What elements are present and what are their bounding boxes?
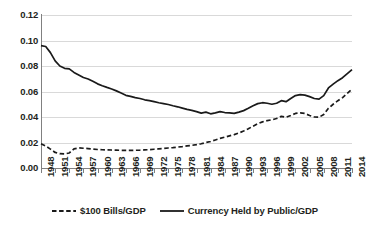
x-tick	[352, 169, 353, 173]
chart-legend: $100 Bills/GDPCurrency Held by Public/GD…	[0, 205, 370, 216]
y-tick-label: 0.02	[2, 137, 38, 148]
x-tick	[253, 169, 254, 173]
x-tick-label: 1975	[172, 157, 183, 177]
x-tick-label: 1987	[229, 157, 240, 177]
x-tick-label: 1969	[144, 157, 155, 177]
x-tick	[281, 169, 282, 173]
y-tick-label: 0.00	[2, 162, 38, 173]
chart-container: 0.120.100.080.060.040.020.00 19481951195…	[0, 0, 370, 233]
x-tick	[41, 169, 42, 173]
x-tick	[154, 169, 155, 173]
y-tick-label: 0.06	[2, 86, 38, 97]
x-tick-label: 1948	[45, 157, 56, 177]
x-tick-label: 1954	[73, 157, 84, 177]
x-tick-label: 1966	[130, 157, 141, 177]
plot-area	[41, 15, 352, 168]
y-tick-label: 0.04	[2, 111, 38, 122]
x-tick	[197, 169, 198, 173]
legend-label: Currency Held by Public/GDP	[188, 205, 318, 216]
legend-item[interactable]: $100 Bills/GDP	[52, 205, 146, 216]
x-tick	[83, 169, 84, 173]
x-tick	[98, 169, 99, 173]
x-tick-label: 2014	[356, 157, 367, 177]
x-tick-label: 1951	[59, 157, 70, 177]
x-tick-label: 1963	[116, 157, 127, 177]
x-tick	[182, 169, 183, 173]
x-tick	[69, 169, 70, 173]
series-line	[41, 46, 352, 114]
x-tick-label: 1978	[186, 157, 197, 177]
x-tick-label: 1972	[158, 157, 169, 177]
x-tick	[112, 169, 113, 173]
legend-label: $100 Bills/GDP	[80, 205, 146, 216]
x-tick	[126, 169, 127, 173]
legend-dashed-line-icon	[52, 207, 76, 215]
x-tick	[239, 169, 240, 173]
x-tick-label: 2002	[299, 157, 310, 177]
y-tick-label: 0.12	[2, 9, 38, 20]
x-tick	[225, 169, 226, 173]
series-paths	[41, 15, 352, 168]
x-tick-label: 2005	[314, 157, 325, 177]
x-tick	[338, 169, 339, 173]
x-tick-label: 1981	[201, 157, 212, 177]
x-tick	[310, 169, 311, 173]
series-line	[41, 89, 352, 154]
x-tick	[324, 169, 325, 173]
x-tick-label: 1999	[285, 157, 296, 177]
x-tick	[140, 169, 141, 173]
x-tick-label: 2008	[328, 157, 339, 177]
x-tick	[267, 169, 268, 173]
legend-solid-line-icon	[160, 207, 184, 215]
x-tick-label: 1996	[271, 157, 282, 177]
y-axis-labels: 0.120.100.080.060.040.020.00	[0, 0, 38, 233]
legend-item[interactable]: Currency Held by Public/GDP	[160, 205, 318, 216]
x-tick-label: 2011	[342, 157, 353, 177]
x-tick	[211, 169, 212, 173]
x-tick	[295, 169, 296, 173]
x-tick-label: 1990	[243, 157, 254, 177]
x-tick-label: 1957	[87, 157, 98, 177]
y-tick-label: 0.08	[2, 60, 38, 71]
x-tick	[55, 169, 56, 173]
x-tick-label: 1993	[257, 157, 268, 177]
x-tick	[168, 169, 169, 173]
x-tick-label: 1984	[215, 157, 226, 177]
x-tick-label: 1960	[102, 157, 113, 177]
y-tick-label: 0.10	[2, 35, 38, 46]
